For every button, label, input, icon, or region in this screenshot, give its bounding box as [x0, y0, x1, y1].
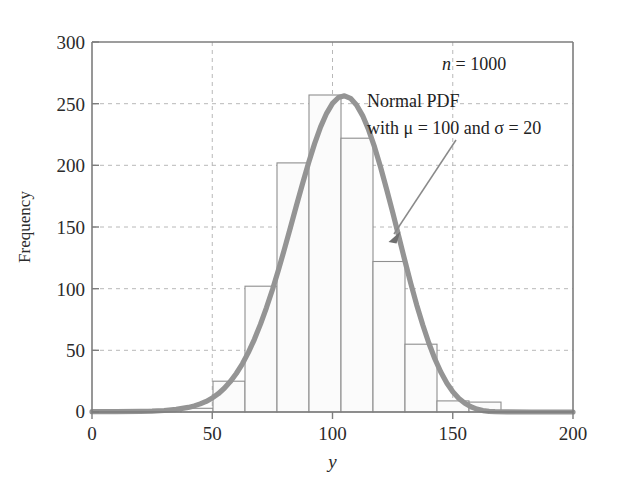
- x-tick-label-0: 0: [87, 423, 97, 444]
- histogram-normal-pdf-chart: 300 250 200 150 100 50 0 0 50 100 150 20…: [0, 0, 621, 483]
- histogram-bar: [373, 262, 405, 413]
- x-tick-label-150: 150: [439, 423, 468, 444]
- sample-size-value: = 1000: [451, 54, 506, 74]
- x-tick-label-50: 50: [203, 423, 222, 444]
- pdf-annotation-line-2: with μ = 100 and σ = 20: [367, 118, 541, 138]
- histogram-bar: [277, 163, 309, 412]
- y-tick-label-50: 50: [66, 340, 85, 361]
- y-tick-label-250: 250: [57, 94, 86, 115]
- x-tick-label-200: 200: [559, 423, 588, 444]
- x-axis-title: y: [326, 451, 337, 472]
- sample-size-annotation: n = 1000: [442, 54, 506, 74]
- y-tick-label-200: 200: [57, 155, 86, 176]
- sample-size-symbol: n: [442, 54, 451, 74]
- figure-page: 300 250 200 150 100 50 0 0 50 100 150 20…: [0, 0, 621, 483]
- y-tick-label-300: 300: [57, 32, 86, 53]
- x-tick-label-100: 100: [318, 423, 347, 444]
- x-axis-tick-labels: 0 50 100 150 200: [87, 423, 587, 444]
- y-axis-tick-labels: 300 250 200 150 100 50 0: [57, 32, 86, 422]
- y-tick-label-100: 100: [57, 279, 86, 300]
- y-axis-title: Frequency: [15, 191, 34, 263]
- pdf-annotation-line-1: Normal PDF: [367, 91, 460, 111]
- y-tick-label-0: 0: [76, 401, 86, 422]
- histogram-bar: [341, 138, 373, 412]
- y-tick-label-150: 150: [57, 217, 86, 238]
